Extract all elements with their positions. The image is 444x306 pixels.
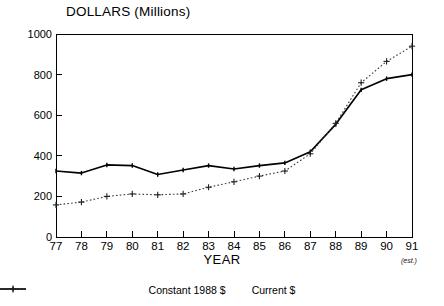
legend-label: Current $ bbox=[252, 284, 296, 296]
x-tick-label: 89 bbox=[355, 240, 368, 252]
x-tick-label: 91 bbox=[406, 240, 419, 252]
x-tick-label: 87 bbox=[304, 240, 317, 252]
x-tick-label: 77 bbox=[50, 240, 63, 252]
x-tick-label: 82 bbox=[177, 240, 190, 252]
chart-legend: Constant 1988 $ Current $ bbox=[0, 284, 444, 296]
x-tick-label: 78 bbox=[75, 240, 88, 252]
x-tick-label: 79 bbox=[100, 240, 113, 252]
x-axis-title: YEAR bbox=[0, 252, 444, 267]
legend-item-current-dollars: Current $ bbox=[252, 284, 296, 296]
legend-label: Constant 1988 $ bbox=[149, 284, 226, 296]
x-tick-label: 86 bbox=[278, 240, 291, 252]
dotted-plus-icon bbox=[0, 284, 26, 294]
x-tick-label: 83 bbox=[202, 240, 215, 252]
x-tick-label: 90 bbox=[380, 240, 393, 252]
estimate-note: (est.) bbox=[401, 257, 417, 264]
x-tick-label: 85 bbox=[253, 240, 266, 252]
x-tick-label: 84 bbox=[228, 240, 241, 252]
x-tick-label: 88 bbox=[329, 240, 342, 252]
x-tick-label: 81 bbox=[151, 240, 164, 252]
chart-container: DOLLARS (Millions) 0 200 400 600 800 100… bbox=[0, 0, 444, 306]
x-tick-label: 80 bbox=[126, 240, 139, 252]
legend-item-constant-1988-dollars: Constant 1988 $ bbox=[149, 284, 226, 296]
